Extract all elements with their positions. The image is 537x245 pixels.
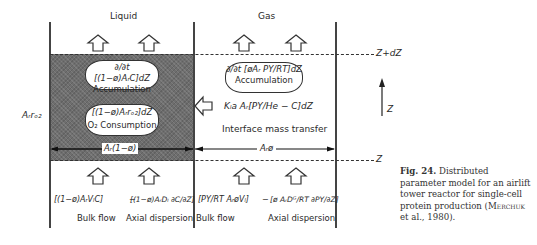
figure-number: Fig. 24. (400, 166, 436, 176)
liquid-accumulation-label: Accumulation (86, 84, 158, 95)
up-arrow-icon (138, 34, 160, 52)
up-arrow-icon (233, 167, 255, 185)
up-arrow-icon (138, 167, 160, 185)
gas-accumulation-term: ∂/∂t [øAᵣ PY/RT]dZ Accumulation (225, 62, 303, 93)
caption-rest: et al., 1980). (400, 212, 455, 222)
left-arrow-icon (194, 96, 214, 116)
up-arrow-icon (285, 34, 307, 52)
level-label-bottom: Z (376, 154, 382, 164)
liquid-consumption-label: O₂ Consumption (86, 120, 158, 131)
liquid-consumption-term: [(1−ø)Aᵣrₒ₂]dZ O₂ Consumption (85, 104, 159, 136)
liquid-consumption-expr: [(1−ø)Aᵣrₒ₂]dZ (86, 107, 158, 118)
double-headed-arrow-icon (50, 145, 336, 153)
gas-accumulation-expr: ∂/∂t [øAᵣ PY/RT]dZ (226, 64, 302, 75)
liquid-area-label: Aᵣ(1−ø) (102, 143, 138, 154)
left-wall (49, 22, 51, 228)
gas-axial-dispersion-label: Axial dispersion (268, 213, 335, 223)
interface-transfer-expr: Kₗa Aᵣ[PY/He − C]dZ (224, 101, 313, 111)
level-label-top: Z+dZ (376, 48, 402, 58)
up-arrow-icon (285, 167, 307, 185)
liquid-bulk-flow-label: Bulk flow (77, 213, 116, 223)
interface-transfer-label: Interface mass transfer (222, 124, 327, 134)
gas-bulk-flow-label: Bulk flow (196, 213, 235, 223)
liquid-axial-dispersion-expr: [(1−ø)AᵣDₗ ∂C/∂Z] (130, 195, 194, 204)
caption-author: Merchuk (488, 201, 525, 211)
z-axis-label: Z (387, 104, 393, 114)
up-arrow-icon (87, 167, 109, 185)
gas-area-label: Aᵣø (257, 143, 276, 154)
up-arrow-icon (87, 34, 109, 52)
gas-minus: − (262, 195, 269, 204)
level-line-bottom (50, 160, 374, 161)
liquid-label: Liquid (110, 11, 137, 21)
up-arrow-icon (233, 34, 255, 52)
liquid-accumulation-term: ∂/∂t [(1−ø)AᵣC]dZ Accumulation (85, 60, 159, 90)
gas-bulk-flow-expr: [PY/RT AᵣøVₗ] (198, 195, 249, 204)
gas-accumulation-label: Accumulation (226, 75, 302, 86)
figure-caption: Fig. 24. Distributed parameter model for… (400, 166, 534, 224)
gas-axial-dispersion-expr: [ø AᵣDᴳ/RT ∂PY/∂Z] (270, 195, 339, 204)
liquid-axial-dispersion-label: Axial dispersion (126, 213, 193, 223)
gas-label: Gas (258, 11, 275, 21)
level-line-top (50, 54, 374, 55)
reaction-area-label: Aᵣrₒ₂ (22, 110, 42, 120)
liquid-bulk-flow-expr: [(1−ø)AᵣVₗC] (54, 195, 103, 204)
liquid-accumulation-expr: ∂/∂t [(1−ø)AᵣC]dZ (86, 62, 158, 84)
